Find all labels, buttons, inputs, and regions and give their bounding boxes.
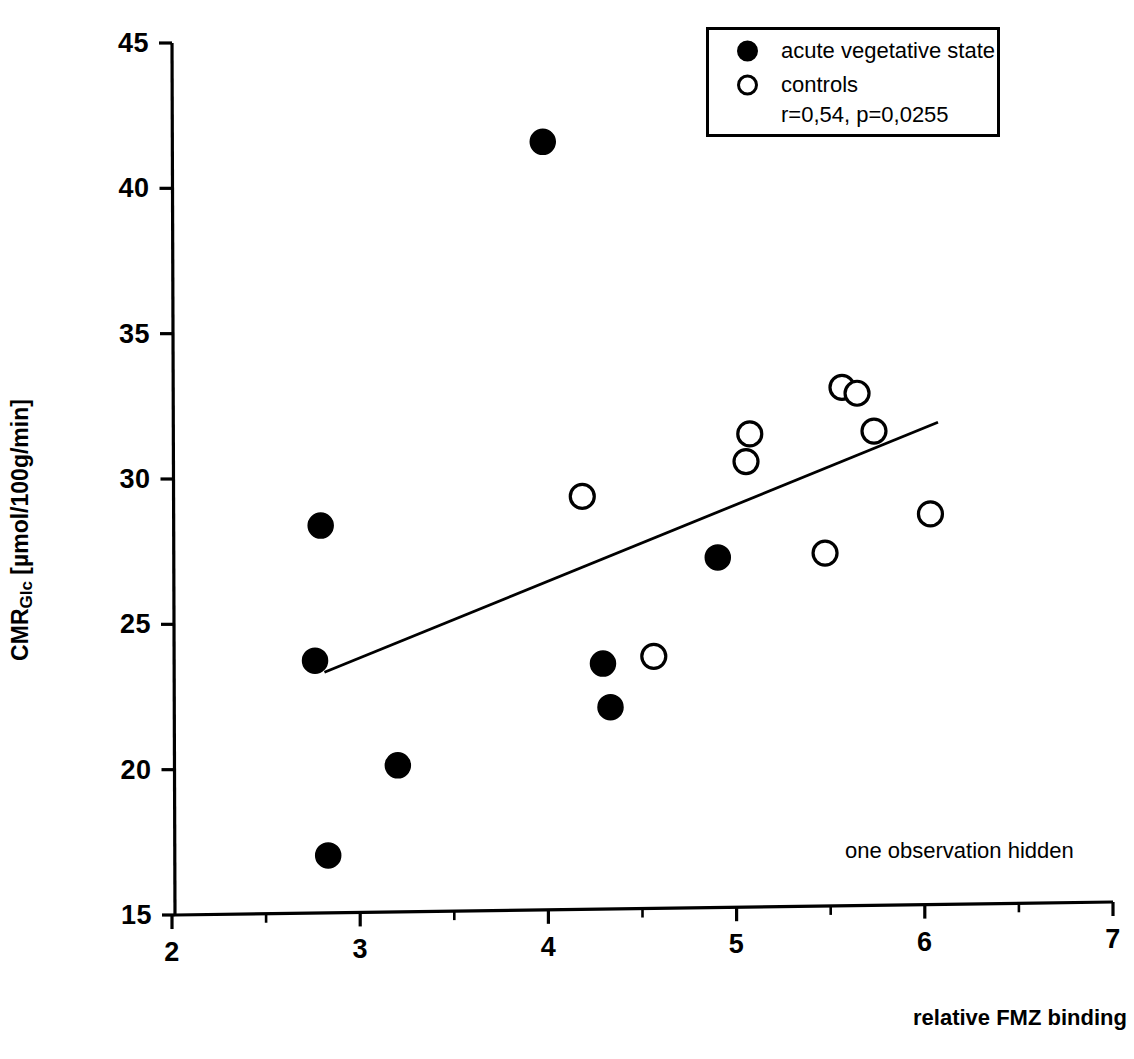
data-point-control xyxy=(734,450,758,474)
y-axis-title-units: [µmol/100g/min] xyxy=(7,399,33,581)
data-point-acute-vegetative-state xyxy=(598,695,623,720)
y-axis-tick-label: 20 xyxy=(60,754,152,785)
x-axis-tick-label: 4 xyxy=(541,932,557,963)
data-point-acute-vegetative-state xyxy=(316,843,341,868)
data-point-acute-vegetative-state xyxy=(705,545,730,570)
data-point-control xyxy=(862,419,886,443)
y-axis-title: CMRGlc [µmol/100g/min] xyxy=(7,270,38,790)
legend-statistics: r=0,54, p=0,0255 xyxy=(781,102,949,128)
y-axis-tick-label: 40 xyxy=(58,173,150,204)
x-axis-tick-label: 6 xyxy=(917,927,933,958)
x-axis-line xyxy=(175,902,1113,915)
data-point-control xyxy=(642,644,666,668)
open-circle-marker-icon xyxy=(737,75,758,96)
hidden-observation-note: one observation hidden xyxy=(845,838,1074,864)
legend-item-controls: controls xyxy=(709,70,997,100)
data-point-acute-vegetative-state xyxy=(590,651,615,676)
legend-label-controls: controls xyxy=(781,72,858,98)
x-axis-tick-label: 2 xyxy=(164,937,180,968)
legend-item-acute-vegetative-state: acute vegetative state xyxy=(709,36,997,66)
x-axis-title: relative FMZ binding xyxy=(913,1005,1127,1031)
y-axis-title-subscript: Glc xyxy=(17,581,36,608)
y-axis-tick-label: 25 xyxy=(59,609,151,640)
data-point-control xyxy=(813,541,837,565)
data-point-acute-vegetative-state xyxy=(303,648,328,673)
data-point-control xyxy=(918,502,942,526)
plot-canvas xyxy=(0,0,1134,1059)
x-axis-tick-label: 3 xyxy=(352,934,368,965)
legend: acute vegetative state controls r=0,54, … xyxy=(706,27,1000,137)
x-axis-tick-label: 7 xyxy=(1105,924,1121,955)
data-point-acute-vegetative-state xyxy=(530,129,555,154)
data-point-control xyxy=(845,381,869,405)
regression-line xyxy=(324,422,938,672)
legend-label-acute-vegetative-state: acute vegetative state xyxy=(781,38,995,64)
data-point-control xyxy=(738,422,762,446)
x-axis-tick-label: 5 xyxy=(729,929,745,960)
data-point-acute-vegetative-state xyxy=(308,513,333,538)
y-axis-tick-label: 45 xyxy=(57,28,149,59)
y-axis-title-main: CMR xyxy=(7,608,33,660)
filled-circle-marker-icon xyxy=(737,41,758,62)
data-point-control xyxy=(570,484,594,508)
scatter-plot-figure: CMRGlc [µmol/100g/min] relative FMZ bind… xyxy=(0,0,1134,1059)
y-axis-tick-label: 35 xyxy=(58,318,150,349)
y-axis-tick-label: 30 xyxy=(59,464,151,495)
y-axis-tick-label: 15 xyxy=(60,900,152,931)
data-point-acute-vegetative-state xyxy=(385,753,410,778)
